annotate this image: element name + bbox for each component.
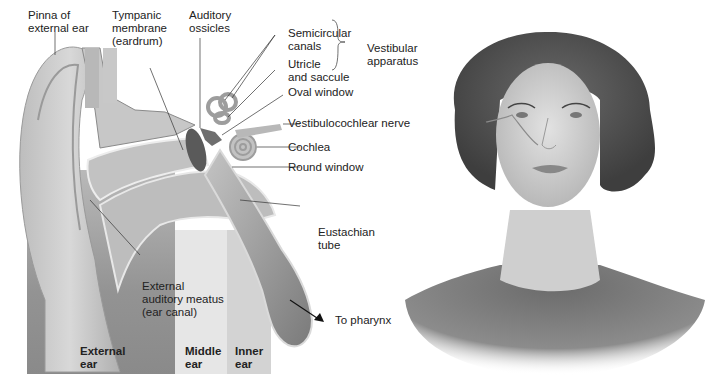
label-utricle-saccule: Utricle and saccule bbox=[288, 58, 349, 84]
vestibulocochlear-nerve bbox=[235, 124, 282, 138]
label-cochlea: Cochlea bbox=[288, 141, 330, 154]
label-vestibulocochlear-nerve: Vestibulocochlear nerve bbox=[288, 117, 410, 130]
label-pinna: Pinna of external ear bbox=[28, 9, 89, 35]
semicircular-canals bbox=[208, 94, 236, 123]
neck bbox=[500, 210, 600, 291]
ear-cross-section-illustration bbox=[0, 0, 710, 386]
zone-label-inner-ear: Inner ear bbox=[235, 345, 263, 371]
cochlea bbox=[230, 134, 256, 160]
zone-label-external-ear: External ear bbox=[80, 345, 125, 371]
label-tympanic-membrane: Tympanic membrane (eardrum) bbox=[112, 9, 167, 48]
zone-label-middle-ear: Middle ear bbox=[185, 345, 221, 371]
label-external-auditory-meatus: External auditory meatus (ear canal) bbox=[142, 280, 224, 319]
label-eustachian-tube: Eustachian tube bbox=[318, 226, 375, 252]
label-round-window: Round window bbox=[288, 161, 363, 174]
label-vestibular-apparatus: Vestibular apparatus bbox=[367, 42, 418, 68]
label-auditory-ossicles: Auditory ossicles bbox=[189, 9, 231, 35]
woman-illustration bbox=[405, 32, 705, 375]
label-to-pharynx: To pharynx bbox=[335, 314, 391, 327]
label-semicircular-canals: Semicircular canals bbox=[288, 27, 351, 53]
ear-anatomy-figure: Pinna of external ear Tympanic membrane … bbox=[0, 0, 710, 386]
face bbox=[496, 63, 600, 207]
label-oval-window: Oval window bbox=[288, 86, 353, 99]
